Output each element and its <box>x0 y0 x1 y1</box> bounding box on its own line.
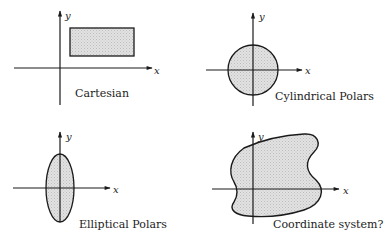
y-axis-label: y <box>258 11 265 22</box>
y-axis-label: y <box>64 10 71 21</box>
irregular-region <box>231 134 322 217</box>
panel-cylindrical: x y Cylindrical Polars <box>206 11 374 106</box>
caption-elliptical: Elliptical Polars <box>79 218 167 231</box>
y-axis-label: y <box>257 131 264 142</box>
caption-cartesian: Cartesian <box>75 87 129 100</box>
x-axis-label: x <box>305 65 311 76</box>
panel-cartesian: x y Cartesian <box>14 10 160 105</box>
rectangle-region <box>70 28 134 56</box>
caption-arbitrary: Coordinate system? <box>273 218 383 231</box>
y-axis-label: y <box>65 131 72 142</box>
panel-elliptical: x y Elliptical Polars <box>13 131 167 231</box>
coordinate-systems-diagram: x y Cartesian x y Cylindrical Polars x y… <box>0 0 388 239</box>
x-axis-label: x <box>154 65 160 76</box>
panel-arbitrary: x y Coordinate system? <box>212 131 383 231</box>
caption-cylindrical: Cylindrical Polars <box>275 90 374 103</box>
x-axis-label: x <box>113 184 119 195</box>
x-axis-label: x <box>343 185 349 196</box>
